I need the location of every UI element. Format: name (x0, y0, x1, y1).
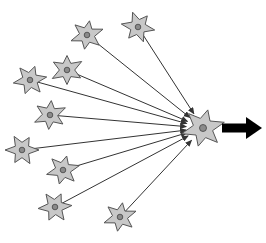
nucleus (135, 24, 141, 30)
nucleus (60, 167, 66, 173)
nucleus (47, 112, 53, 118)
input-neuron-7 (47, 156, 80, 184)
input-neuron-5 (35, 101, 66, 130)
connection-arrow (62, 136, 188, 203)
target-neuron (182, 110, 225, 146)
nucleus (27, 77, 33, 83)
nucleus (52, 204, 58, 210)
input-neuron-6 (5, 136, 39, 163)
nucleus (84, 32, 90, 38)
nucleus (200, 125, 207, 132)
connection-arrow (30, 130, 186, 149)
input-neuron-1 (71, 21, 103, 49)
input-neuron-8 (38, 194, 72, 220)
connection-arrow (71, 133, 187, 168)
input-neuron-2 (121, 12, 154, 42)
connection-arrow (58, 116, 186, 127)
connection-arrow (38, 82, 187, 123)
connection-arrow (126, 140, 192, 211)
nucleus (19, 147, 25, 153)
output-arrow-icon (222, 117, 262, 139)
input-neuron-4 (13, 66, 46, 93)
connection-arrow (142, 34, 194, 114)
input-neuron-9 (104, 203, 136, 231)
input-neuron-3 (52, 56, 81, 85)
nucleus (117, 214, 123, 220)
nucleus (64, 67, 70, 73)
postsynaptic-neuron (182, 110, 225, 146)
connection-arrow (93, 40, 190, 117)
convergence-diagram (0, 0, 266, 243)
